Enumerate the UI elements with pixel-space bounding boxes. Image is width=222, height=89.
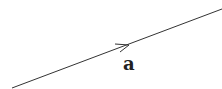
vector-line: [12, 9, 222, 88]
vector-diagram: a: [0, 0, 222, 89]
vector-label: a: [123, 53, 135, 74]
